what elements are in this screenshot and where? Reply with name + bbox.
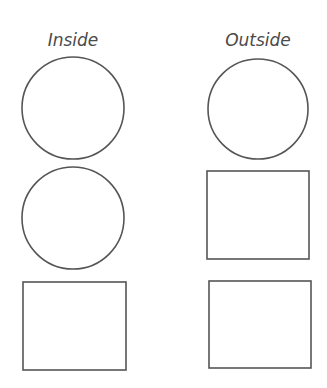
- outside-square-2: [209, 281, 311, 368]
- inside-heading: Inside: [48, 30, 99, 50]
- inside-circle-1: [22, 57, 124, 159]
- inside-circle-2: [22, 167, 124, 269]
- shapes-diagram: Inside Outside: [0, 0, 327, 388]
- inside-square: [23, 282, 126, 370]
- outside-heading: Outside: [225, 30, 291, 50]
- outside-square-1: [207, 171, 309, 259]
- outside-circle: [208, 59, 308, 159]
